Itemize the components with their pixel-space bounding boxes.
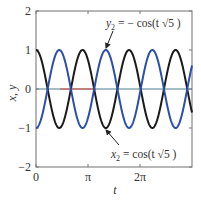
y-tick-label: 0 (25, 82, 31, 96)
curve-annotation: x2 = cos(t √5 ) (110, 148, 177, 163)
y-tick-label: −1 (18, 121, 31, 135)
annotation-arrow (106, 130, 119, 145)
curve-annotation: y2 = − cos(t √5 ) (105, 17, 181, 32)
x-tick-label: π (85, 170, 91, 184)
x-axis-label: t (113, 183, 117, 197)
y-tick-label: 2 (25, 4, 31, 18)
y-tick-label: 1 (25, 43, 31, 57)
x-tick-label: 2π (134, 170, 146, 184)
annotation-arrow (106, 31, 113, 48)
y-axis-label: x, y (5, 84, 19, 102)
chart: 0π2π210−1−2 x, y t y2 = − cos(t √5 )x2 =… (0, 0, 201, 200)
y-tick-label: −2 (18, 160, 31, 174)
x-tick-label: 0 (33, 170, 39, 184)
plot-area (36, 11, 192, 167)
